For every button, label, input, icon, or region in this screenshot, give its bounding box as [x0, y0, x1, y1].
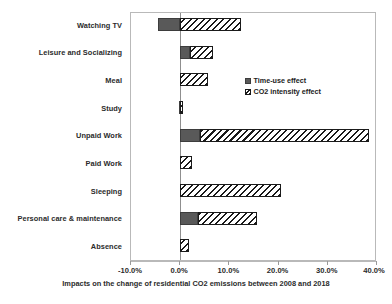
y-axis-category-labels: Watching TV Leisure and Socializing Meal…	[0, 12, 128, 261]
x-axis-tick-4	[327, 261, 328, 265]
x-axis-title: Impacts on the change of residential CO2…	[0, 279, 392, 288]
co2-impact-bar-chart: Watching TV Leisure and Socializing Meal…	[0, 0, 392, 304]
x-axis-tick-1	[179, 261, 180, 265]
bar-co2-meal	[180, 73, 208, 86]
bar-co2-personal-care	[198, 212, 257, 225]
x-axis-tick-label-30: 30.0%	[316, 266, 338, 275]
plot-area	[130, 12, 376, 261]
x-axis-tick-label-40: 40.0%	[363, 266, 385, 275]
hatched-square-icon	[245, 89, 251, 95]
bar-co2-leisure	[190, 46, 213, 59]
bar-co2-sleeping	[180, 184, 281, 197]
bar-time-use-personal-care	[180, 212, 198, 225]
bar-co2-study	[180, 101, 183, 114]
y-axis-label-paid-work: Paid Work	[0, 159, 122, 168]
y-axis-label-unpaid-work: Unpaid Work	[0, 131, 122, 140]
legend-label-time-use-effect: Time-use effect	[254, 76, 307, 87]
legend-item-co2-intensity-effect: CO2 intensity effect	[245, 87, 321, 98]
x-axis-line	[130, 261, 376, 262]
y-axis-label-personal-care: Personal care & maintenance	[0, 214, 122, 223]
bar-co2-watching-tv	[180, 18, 241, 31]
legend-label-co2-intensity-effect: CO2 intensity effect	[254, 87, 322, 98]
y-axis-label-study: Study	[0, 104, 122, 113]
y-axis-label-meal: Meal	[0, 76, 122, 85]
y-axis-label-watching-tv: Watching TV	[0, 21, 122, 30]
bar-time-use-watching-tv	[158, 18, 180, 31]
x-axis-tick-5	[376, 261, 377, 265]
x-axis-tick-label-0: 0.0%	[171, 266, 188, 275]
x-axis-tick-label-10: 10.0%	[218, 266, 240, 275]
bar-co2-unpaid-work	[200, 129, 368, 142]
x-axis-tick-2	[228, 261, 229, 265]
bar-time-use-leisure	[180, 46, 190, 59]
bar-co2-paid-work	[180, 156, 192, 169]
y-axis-label-absence: Absence	[0, 242, 122, 251]
bar-time-use-unpaid-work	[180, 129, 200, 142]
x-axis-tick-3	[278, 261, 279, 265]
legend-item-time-use-effect: Time-use effect	[245, 76, 321, 87]
x-axis-tick-label-minus-10: -10.0%	[118, 266, 142, 275]
y-axis-label-sleeping: Sleeping	[0, 187, 122, 196]
x-axis-tick-0	[130, 261, 131, 265]
x-axis-tick-label-20: 20.0%	[267, 266, 289, 275]
chart-legend: Time-use effect CO2 intensity effect	[245, 76, 321, 97]
bar-co2-absence	[180, 239, 189, 252]
y-axis-label-leisure: Leisure and Socializing	[0, 48, 122, 57]
solid-square-icon	[245, 78, 251, 84]
